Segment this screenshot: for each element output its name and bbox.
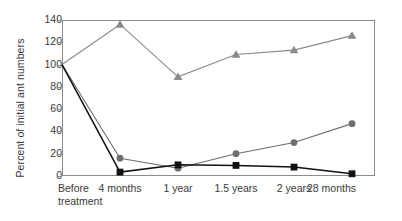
y-axis-tick-mark xyxy=(58,176,62,177)
square-series-marker xyxy=(349,170,356,177)
square-series-marker xyxy=(233,162,240,169)
triangle-series-line xyxy=(62,24,352,76)
y-axis-tick-label: 140 xyxy=(16,14,62,25)
circle-series-marker xyxy=(117,155,124,162)
square-series-marker xyxy=(117,169,124,176)
ant-numbers-line-chart: Percent of initial ant numbers 020406080… xyxy=(0,0,402,221)
triangle-series-marker xyxy=(116,20,125,28)
y-axis-ticks: 020406080100120140 xyxy=(0,20,62,177)
square-series-marker xyxy=(291,164,298,171)
circle-series-marker xyxy=(349,120,356,127)
plot-area xyxy=(62,20,375,176)
y-axis-tick-label: 20 xyxy=(16,148,62,159)
circle-series-marker xyxy=(291,139,298,146)
y-axis-tick-label: 40 xyxy=(16,125,62,136)
y-axis-tick-label: 120 xyxy=(16,36,62,47)
y-axis-tick-label: 100 xyxy=(16,59,62,70)
x-axis-ticks: Before treatment4 months1 year1.5 years2… xyxy=(0,180,402,220)
x-axis-tick-label: 28 months xyxy=(270,182,356,195)
square-series-line xyxy=(62,65,352,174)
series-layer xyxy=(62,20,375,176)
y-axis-tick-label: 80 xyxy=(16,81,62,92)
y-axis-tick-label: 60 xyxy=(16,103,62,114)
triangle-series-marker xyxy=(348,31,357,39)
circle-series-line xyxy=(62,65,352,169)
square-series-marker xyxy=(175,161,182,168)
circle-series-marker xyxy=(233,150,240,157)
